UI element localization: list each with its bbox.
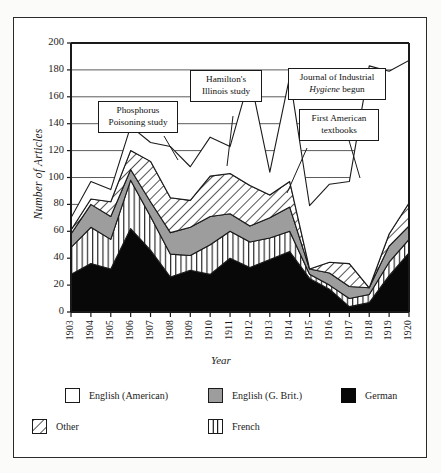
- legend-item-other: Other: [32, 419, 79, 434]
- legend-label: English (American): [89, 390, 168, 401]
- legend-item-english-gb: English (G. Brit.): [208, 388, 302, 403]
- annotation-line: textbooks: [304, 125, 374, 137]
- legend-item-french: French: [208, 419, 260, 434]
- annotation-line: Poisoning study: [103, 117, 173, 129]
- figure-frame: Number of Articles Year 200 180 160 140 …: [13, 17, 427, 458]
- annotation-journal: Journal of Industrial Hygiene begun: [288, 68, 386, 100]
- legend-swatch-gray-icon: [208, 388, 223, 403]
- annotation-line: Illinois study: [195, 86, 257, 98]
- annotation-line-rest: begun: [340, 84, 365, 94]
- legend-item-german: German: [341, 388, 397, 403]
- annotation-phosphorus: Phosphorus Poisoning study: [98, 101, 178, 133]
- chart-area: Number of Articles Year 200 180 160 140 …: [14, 18, 428, 378]
- annotation-textbooks: First American textbooks: [299, 109, 379, 141]
- legend-swatch-vertical-icon: [208, 419, 223, 434]
- legend-label: French: [232, 421, 260, 432]
- legend-swatch-white-icon: [65, 388, 80, 403]
- annotation-line: Phosphorus: [103, 105, 173, 117]
- legend-label: English (G. Brit.): [232, 390, 302, 401]
- annotation-line: Journal of Industrial: [293, 72, 381, 84]
- annotation-line: Hygiene begun: [293, 84, 381, 96]
- legend-label: Other: [56, 421, 79, 432]
- legend-swatch-hatch-icon: [32, 419, 47, 434]
- legend-item-english-american: English (American): [65, 388, 168, 403]
- legend-swatch-black-icon: [341, 388, 356, 403]
- annotation-line: First American: [304, 113, 374, 125]
- figure-root: Number of Articles Year 200 180 160 140 …: [0, 0, 441, 473]
- annotation-hamilton: Hamilton's Illinois study: [190, 70, 262, 102]
- annotation-italic: Hygiene: [309, 84, 340, 94]
- legend: English (American) English (G. Brit.) Ge…: [14, 384, 428, 457]
- legend-label: German: [365, 390, 397, 401]
- annotation-line: Hamilton's: [195, 74, 257, 86]
